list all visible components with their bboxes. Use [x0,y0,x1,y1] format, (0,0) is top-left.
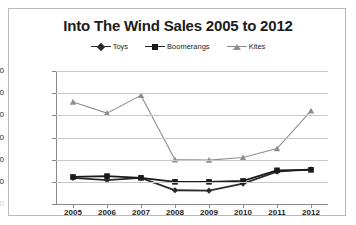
x-axis-tick [175,204,176,208]
series-kites [70,92,314,163]
data-point-marker [138,175,144,181]
triangle-marker [227,42,247,51]
x-axis-tick-label: 2012 [291,208,331,217]
legend-label: Boomerangs [167,42,210,51]
y-axis-tick [52,182,56,183]
chart-legend: ToysBoomerangsKites [9,42,347,51]
gridline [56,71,328,72]
y-axis-tick [52,204,56,205]
y-axis-tick-label: 25,000 [0,88,4,97]
y-axis-tick [52,160,56,161]
data-point-marker [274,168,280,174]
gridline [56,138,328,139]
x-axis-tick [243,204,244,208]
legend-label: Kites [249,42,266,51]
x-axis-tick [73,204,74,208]
y-axis-tick-label: 0 [0,199,4,208]
gridline [56,182,328,183]
y-axis-tick [52,93,56,94]
x-axis-tick [141,204,142,208]
y-axis-tick [52,115,56,116]
gridline [56,115,328,116]
data-point-marker [70,99,76,105]
y-axis-tick-label: 20,000 [0,110,4,119]
y-axis-tick-label: 5,000 [0,177,4,186]
legend-item-toys: Toys [91,42,128,51]
diamond-marker [91,42,111,51]
legend-item-kites: Kites [227,42,266,51]
x-axis-tick [311,204,312,208]
x-axis-tick [277,204,278,208]
legend-item-boomerangs: Boomerangs [145,42,210,51]
y-axis-tick-label: 15,000 [0,133,4,142]
data-point-marker [206,188,212,194]
data-point-marker [70,174,76,180]
x-axis-tick [209,204,210,208]
x-axis-line [56,204,328,205]
y-axis-labels: 05,00010,00015,00020,00025,00030,000 [0,71,4,204]
data-point-marker [104,173,110,179]
gridline [56,160,328,161]
y-axis-tick-label: 30,000 [0,66,4,75]
chart-title: Into The Wind Sales 2005 to 2012 [9,17,347,34]
square-marker [145,42,165,51]
data-point-marker [172,187,178,193]
y-axis-tick-label: 10,000 [0,155,4,164]
y-axis-tick [52,138,56,139]
x-axis-labels: 20052006200720082009201020112012 [56,208,328,220]
data-point-marker [308,167,314,173]
x-axis-tick [107,204,108,208]
plot-area [56,71,328,204]
legend-label: Toys [113,42,128,51]
y-axis-tick [52,71,56,72]
chart-container: Into The Wind Sales 2005 to 2012 ToysBoo… [8,8,346,216]
data-point-marker [308,108,314,114]
gridline [56,93,328,94]
